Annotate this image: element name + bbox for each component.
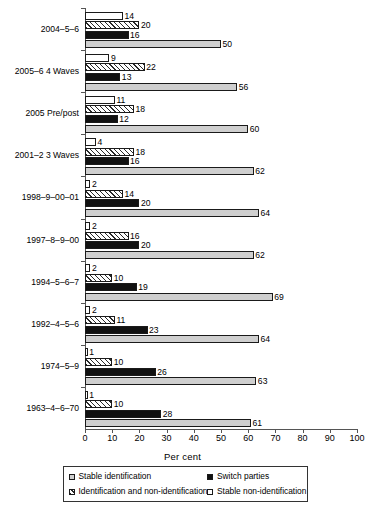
bar-value-label: 16	[130, 231, 140, 240]
legend-label: Stable non-identification	[217, 487, 306, 495]
bar-value-label: 2	[92, 306, 97, 315]
bar: 4	[85, 138, 96, 146]
bar-value-label: 2	[92, 264, 97, 273]
bar: 2	[85, 264, 90, 272]
bar-value-label: 10	[114, 274, 124, 283]
legend-swatch-gray	[69, 474, 75, 480]
x-axis-tick-label: 30	[162, 434, 172, 443]
bar: 60	[85, 125, 248, 133]
bar-value-label: 11	[116, 316, 125, 325]
bar-value-label: 4	[97, 138, 102, 147]
legend-item: Stable identification	[69, 472, 207, 480]
legend-label: Stable identification	[79, 472, 152, 480]
bar-value-label: 20	[141, 21, 151, 30]
y-axis-tick	[81, 50, 85, 51]
x-axis-tick-label: 20	[134, 434, 144, 443]
bar-value-label: 1	[89, 390, 94, 399]
category-label: 1998–9–00–01	[22, 193, 79, 202]
bar-group: 1997–8–9–002162062	[85, 222, 357, 259]
x-axis-tick-label: 50	[216, 434, 226, 443]
bar: 2	[85, 180, 90, 188]
legend-swatch-white	[207, 489, 213, 495]
bar-value-label: 18	[135, 105, 145, 114]
bar-value-label: 18	[135, 147, 145, 156]
bar-group: 1963–4–6–701102861	[85, 391, 357, 428]
bar: 10	[85, 358, 112, 366]
x-axis-tick-label: 0	[82, 434, 87, 443]
bar-value-label: 64	[261, 335, 271, 344]
bar-value-label: 63	[258, 377, 268, 386]
bar-group: 2004–5–614201650	[85, 12, 357, 49]
category-label: 1963–4–6–70	[26, 404, 79, 413]
y-axis-tick	[81, 345, 85, 346]
y-axis-tick	[81, 92, 85, 93]
legend-label: Switch parties	[217, 472, 269, 480]
bar-value-label: 9	[111, 53, 116, 62]
bar-value-label: 11	[116, 96, 125, 105]
category-label: 1974–5–9	[41, 362, 79, 371]
bar-value-label: 2	[92, 222, 97, 231]
bar: 64	[85, 335, 259, 343]
bar: 64	[85, 209, 259, 217]
legend-swatch-black	[207, 474, 213, 480]
legend-swatch-hatch	[69, 489, 75, 495]
bar-group: 1992–4–5–62112364	[85, 306, 357, 343]
bar-group: 1974–5–91102663	[85, 348, 357, 385]
bar-value-label: 28	[163, 409, 173, 418]
x-axis-tick-label: 90	[325, 434, 335, 443]
bar: 61	[85, 419, 251, 427]
bar: 56	[85, 83, 237, 91]
legend-item: Stable non-identification	[207, 487, 306, 495]
x-axis-title: Per cent	[0, 451, 365, 462]
bar: 23	[85, 326, 148, 334]
bar: 14	[85, 12, 123, 20]
bar-value-label: 62	[255, 251, 265, 260]
bar: 20	[85, 199, 139, 207]
bar-value-label: 62	[255, 166, 265, 175]
category-label: 2005–6 4 Waves	[15, 67, 79, 76]
bar-value-label: 26	[157, 367, 167, 376]
bar-value-label: 61	[252, 419, 262, 428]
bar: 10	[85, 274, 112, 282]
bar-value-label: 13	[122, 73, 132, 82]
bar-value-label: 20	[141, 199, 151, 208]
x-axis-tick-label: 60	[243, 434, 253, 443]
category-label: 2005 Pre/post	[25, 109, 79, 118]
bar-value-label: 22	[146, 63, 156, 72]
bar: 62	[85, 251, 254, 259]
bar: 2	[85, 306, 90, 314]
bar-value-label: 56	[239, 82, 249, 91]
bar: 9	[85, 54, 109, 62]
legend-item: Switch parties	[207, 472, 306, 480]
y-axis-tick	[81, 176, 85, 177]
bar-value-label: 19	[138, 283, 148, 292]
bar: 11	[85, 316, 115, 324]
y-axis-tick	[81, 261, 85, 262]
bar: 69	[85, 293, 273, 301]
x-axis-tick-label: 10	[107, 434, 117, 443]
y-axis-tick	[81, 219, 85, 220]
chart-legend: Stable identificationSwitch partiesIdent…	[63, 466, 308, 502]
bar: 11	[85, 96, 115, 104]
bar-group: 1994–5–6–72101969	[85, 264, 357, 301]
x-axis-tick-label: 70	[270, 434, 280, 443]
category-label: 1994–5–6–7	[31, 278, 79, 287]
bar: 19	[85, 283, 137, 291]
bar: 62	[85, 167, 254, 175]
bar: 13	[85, 73, 120, 81]
category-label: 2001–2 3 Waves	[15, 151, 79, 160]
bar-value-label: 12	[119, 115, 129, 124]
x-axis-tick-label: 100	[349, 434, 364, 443]
bar: 50	[85, 40, 221, 48]
bar: 18	[85, 148, 134, 156]
x-axis-tick-label: 40	[189, 434, 199, 443]
bar: 10	[85, 400, 112, 408]
bar-value-label: 23	[149, 325, 159, 334]
bar-value-label: 1	[89, 348, 94, 357]
bar-value-label: 10	[114, 400, 124, 409]
y-axis-tick	[81, 387, 85, 388]
bar: 63	[85, 377, 256, 385]
y-axis-tick	[81, 134, 85, 135]
bar: 20	[85, 241, 139, 249]
bar-value-label: 16	[130, 31, 140, 40]
